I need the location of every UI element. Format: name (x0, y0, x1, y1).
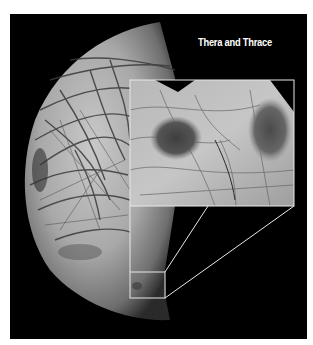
thera-region (150, 116, 202, 160)
image-frame: Thera and Thrace (10, 14, 307, 339)
inset-image (130, 80, 294, 206)
connector-line-right (165, 206, 294, 298)
thrace-region (248, 98, 292, 162)
moon-image (10, 14, 307, 339)
region-label: Thera and Thrace (198, 36, 272, 48)
top-margin (0, 0, 313, 14)
